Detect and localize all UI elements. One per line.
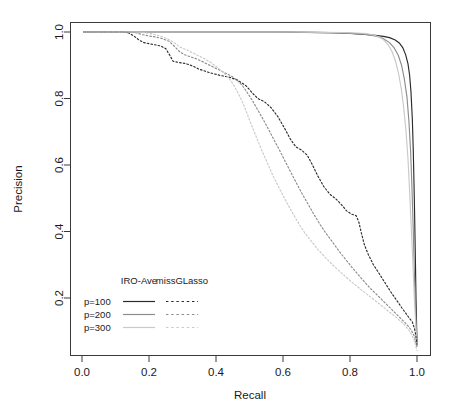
legend-row-label-p100: p=100 bbox=[84, 296, 111, 307]
legend-row-label-p200: p=200 bbox=[84, 309, 111, 320]
x-tick-label: 0.8 bbox=[342, 366, 358, 378]
y-tick-label: 0.8 bbox=[53, 91, 65, 107]
x-tick-label: 0.2 bbox=[141, 366, 157, 378]
precision-recall-figure: 0.00.20.40.60.81.0 0.20.40.60.81.0 Recal… bbox=[0, 0, 452, 420]
y-axis-title: Precision bbox=[12, 165, 24, 212]
x-axis-title: Recall bbox=[234, 389, 266, 401]
x-tick-label: 0.6 bbox=[275, 366, 291, 378]
y-tick-label: 0.6 bbox=[53, 157, 65, 173]
y-tick-label: 0.2 bbox=[53, 290, 65, 306]
legend-header-missglasso: missGLasso bbox=[156, 275, 208, 286]
y-tick-label: 0.4 bbox=[53, 223, 65, 240]
x-tick-label: 0.0 bbox=[74, 366, 90, 378]
x-tick-label: 1.0 bbox=[409, 366, 425, 378]
legend-header-iro-ave: IRO-Ave bbox=[121, 275, 157, 286]
chart-canvas: 0.00.20.40.60.81.0 0.20.40.60.81.0 Recal… bbox=[0, 0, 452, 420]
figure-background bbox=[0, 0, 452, 420]
legend-row-label-p300: p=300 bbox=[84, 322, 111, 333]
x-tick-label: 0.4 bbox=[208, 366, 225, 378]
y-tick-label: 1.0 bbox=[53, 24, 65, 40]
